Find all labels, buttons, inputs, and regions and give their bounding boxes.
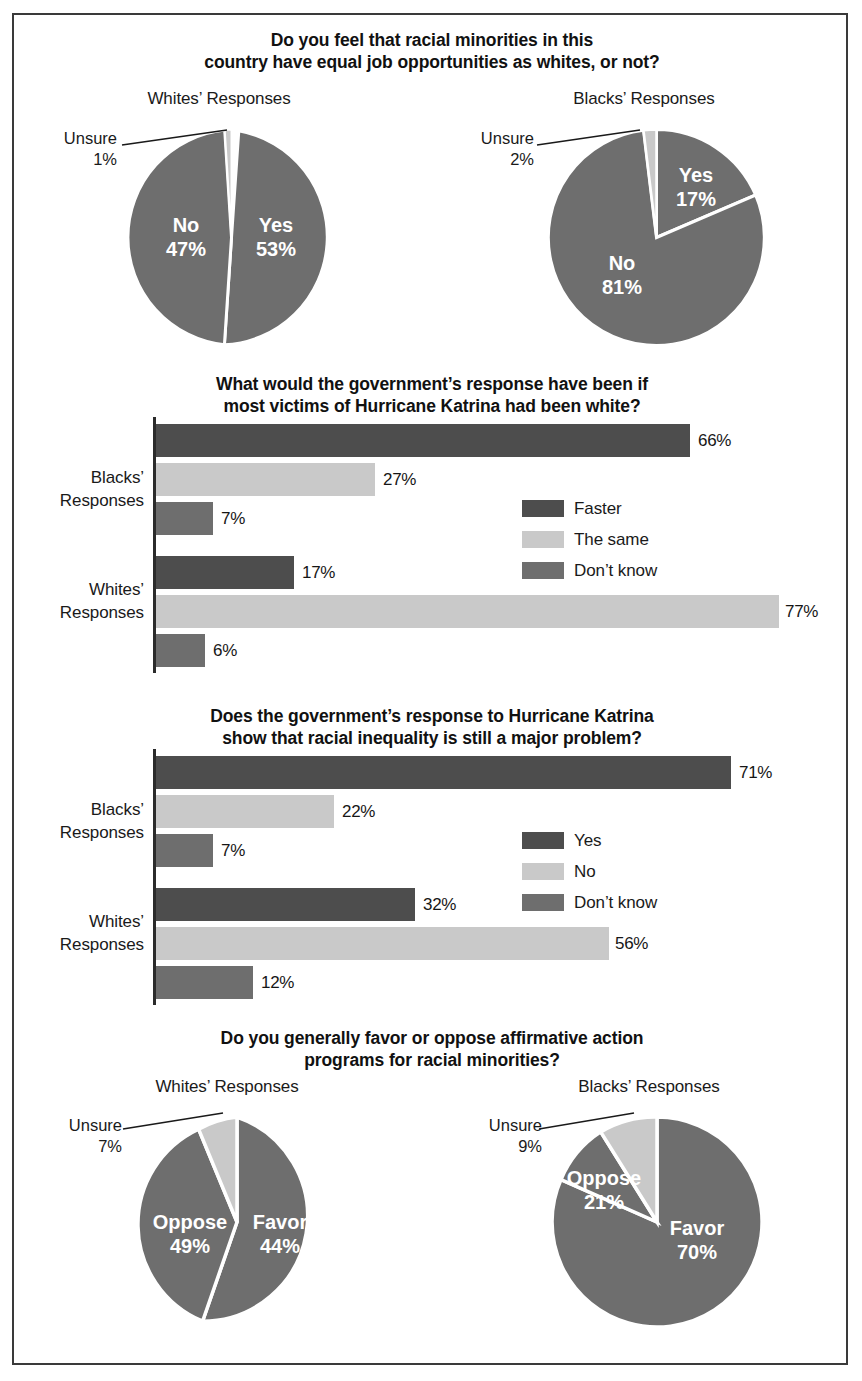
legend-swatch-dont-know [522,562,564,579]
section2-bar-blacks-dk [156,502,213,535]
section2-bar-blacks-same [156,463,375,496]
legend-swatch-dont-know [522,894,564,911]
section2-val-whites-dk: 6% [213,634,237,667]
section3-group-whites-label: Whites’ Responses [14,910,144,956]
slice-no-label: No [609,252,636,274]
section3-bar-blacks-dk [156,834,213,867]
section4-title: Do you generally favor or oppose affirma… [112,1027,752,1071]
section3-val-whites-yes: 32% [423,888,456,921]
section4-right-subtitle: Blacks’ Responses [519,1077,779,1097]
group-label-line2: Responses [14,821,144,844]
section2-title-line2: most victims of Hurricane Katrina had be… [112,395,752,417]
legend-swatch-no [522,863,564,880]
group-label-line1: Whites’ [14,910,144,933]
callout-label: Unsure [489,1116,542,1134]
slice-yes-value: 53% [256,238,296,260]
slice-yes-value: 17% [676,188,716,210]
section1-left-subtitle: Whites’ Responses [89,89,349,109]
group-label-line2: Responses [14,601,144,624]
section2-val-blacks-faster: 66% [698,424,731,457]
callout-leader-line [534,118,644,158]
section3-bar-blacks-no [156,795,334,828]
legend-label-dont-know: Don’t know [574,893,657,913]
legend-item: Don’t know [522,889,657,916]
group-label-line1: Whites’ [14,578,144,601]
section3-group-blacks-label: Blacks’ Responses [14,798,144,844]
section2-group-blacks-label: Blacks’ Responses [14,466,144,512]
section2-val-whites-faster: 17% [302,556,335,589]
section4-whites-unsure-callout: Unsure 7% [2,1115,122,1157]
section4-left-subtitle: Whites’ Responses [97,1077,357,1097]
section4-title-line1: Do you generally favor or oppose affirma… [112,1027,752,1049]
legend-label-yes: Yes [574,831,601,851]
section2-val-whites-same: 77% [785,595,818,628]
poster-frame: Do you feel that racial minorities in th… [12,13,848,1365]
slice-yes-label: Yes [259,214,293,236]
section3-val-whites-no: 56% [615,927,648,960]
callout-value: 9% [422,1136,542,1157]
section1-blacks-pie: Yes 17% No 81% [539,120,774,355]
slice-yes-label: Yes [679,164,713,186]
section2-bar-whites-dk [156,634,205,667]
legend-label-faster: Faster [574,499,622,519]
legend-label-dont-know: Don’t know [574,561,657,581]
slice-oppose-label: Oppose [153,1211,227,1233]
callout-value: 1% [0,149,117,170]
section3-legend: Yes No Don’t know [522,827,657,920]
section4-title-line2: programs for racial minorities? [112,1049,752,1071]
callout-value: 2% [414,149,534,170]
section3-title-line2: show that racial inequality is still a m… [112,727,752,749]
group-label-line1: Blacks’ [14,798,144,821]
section2-bar-whites-same [156,595,779,628]
section3-val-whites-dk: 12% [261,966,294,999]
section2-val-blacks-dk: 7% [221,502,245,535]
legend-swatch-yes [522,832,564,849]
section1-whites-unsure-callout: Unsure 1% [0,128,117,170]
legend-swatch-the-same [522,531,564,548]
slice-no-label: No [173,214,200,236]
callout-label: Unsure [481,129,534,147]
section4-blacks-unsure-callout: Unsure 9% [422,1115,542,1157]
section3-val-blacks-dk: 7% [221,834,245,867]
slice-favor-value: 70% [677,1241,717,1263]
section2-bar-blacks-faster [156,424,690,457]
section3-title: Does the government’s response to Hurric… [112,705,752,749]
group-label-line2: Responses [14,489,144,512]
section1-title: Do you feel that racial minorities in th… [112,29,752,73]
slice-favor-label: Favor [253,1211,308,1233]
legend-item: The same [522,526,657,553]
legend-item: Faster [522,495,657,522]
section2-title-line1: What would the government’s response hav… [112,373,752,395]
section3-bar-whites-no [156,927,609,960]
callout-leader-line [119,118,229,158]
legend-item: No [522,858,657,885]
callout-label: Unsure [69,1116,122,1134]
callout-leader-line [120,1103,225,1143]
section3-val-blacks-yes: 71% [739,756,772,789]
slice-oppose-value: 49% [170,1235,210,1257]
slice-oppose-label: Oppose [567,1167,641,1189]
legend-swatch-faster [522,500,564,517]
group-label-line1: Blacks’ [14,466,144,489]
section2-val-blacks-same: 27% [383,463,416,496]
poster-content: Do you feel that racial minorities in th… [14,15,850,1367]
slice-oppose-value: 21% [584,1191,624,1213]
section3-bar-whites-dk [156,966,253,999]
section2-bar-whites-faster [156,556,294,589]
section2-legend: Faster The same Don’t know [522,495,657,588]
section1-whites-pie: Yes 53% No 47% [114,120,349,355]
section2-group-whites-label: Whites’ Responses [14,578,144,624]
section3-title-line1: Does the government’s response to Hurric… [112,705,752,727]
callout-leader-line [536,1103,636,1143]
section4-whites-pie: Favor 44% Oppose 49% [122,1107,352,1337]
group-label-line2: Responses [14,933,144,956]
section3-bar-whites-yes [156,888,415,921]
legend-item: Don’t know [522,557,657,584]
section1-blacks-unsure-callout: Unsure 2% [414,128,534,170]
slice-favor-label: Favor [670,1217,725,1239]
section1-title-line2: country have equal job opportunities as … [112,51,752,73]
section1-right-subtitle: Blacks’ Responses [514,89,774,109]
section3-val-blacks-no: 22% [342,795,375,828]
section3-bar-blacks-yes [156,756,731,789]
section2-title: What would the government’s response hav… [112,373,752,417]
